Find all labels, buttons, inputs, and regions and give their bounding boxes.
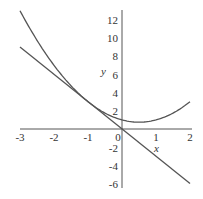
y-tick: 8 <box>113 50 119 62</box>
x-tick: -3 <box>15 131 25 143</box>
x-tick-labels: -3 -2 -1 0 1 2 <box>15 131 192 143</box>
y-tick: -6 <box>109 178 119 190</box>
y-tick: 4 <box>113 87 119 99</box>
x-tick: 2 <box>187 131 193 143</box>
x-tick: -1 <box>83 131 92 143</box>
x-tick: -2 <box>49 131 58 143</box>
x-axis-label: x <box>153 142 159 154</box>
y-tick: -2 <box>109 142 118 154</box>
y-tick-labels: 12 10 8 6 4 2 -2 -4 -6 <box>107 14 119 190</box>
chart: -3 -2 -1 0 1 2 12 10 8 6 4 2 -2 -4 -6 y … <box>0 0 203 199</box>
y-axis-label: y <box>100 65 106 77</box>
y-tick: 10 <box>107 32 119 44</box>
y-tick: 12 <box>107 14 118 26</box>
y-tick: 6 <box>113 69 119 81</box>
y-tick: -4 <box>109 160 119 172</box>
y-tick: 2 <box>113 105 119 117</box>
